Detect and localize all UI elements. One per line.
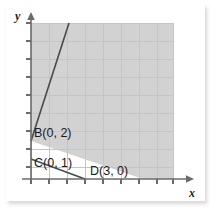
point-label-d: D(3, 0)	[90, 164, 128, 178]
x-axis-arrowhead	[186, 175, 194, 183]
point-label-c: C(0, 1)	[34, 156, 72, 170]
coordinate-plane-graph: y x B(0, 2) C(0, 1) D(3, 0)	[6, 4, 205, 201]
y-axis-label: y	[13, 9, 21, 23]
x-axis-label: x	[188, 186, 195, 200]
point-label-b: B(0, 2)	[34, 126, 72, 140]
figure-card: y x B(0, 2) C(0, 1) D(3, 0)	[6, 4, 205, 201]
y-axis-arrowhead	[27, 12, 35, 20]
